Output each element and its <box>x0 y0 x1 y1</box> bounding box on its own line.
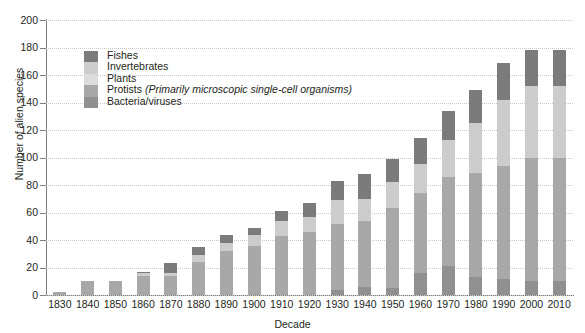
gridline-100 <box>46 158 573 159</box>
bar-segment-1910-protists <box>275 236 288 295</box>
gridline-0 <box>46 295 573 296</box>
x-tick-label-1900: 1900 <box>240 299 268 310</box>
bar-segment-1890-invertebrates <box>220 243 233 251</box>
bar-1880 <box>192 247 205 295</box>
bar-segment-1880-protists <box>192 262 205 295</box>
bar-segment-1990-protists <box>497 166 510 279</box>
bar-segment-1980-bacteria-viruses <box>469 277 482 295</box>
legend-swatch-invertebrates <box>84 62 98 73</box>
bar-segment-1920-protists <box>303 232 316 295</box>
bar-segment-1910-invertebrates <box>275 221 288 236</box>
x-tick-label-1890: 1890 <box>212 299 240 310</box>
legend-item-label: Protists <box>107 83 142 95</box>
gridline-80 <box>46 185 573 186</box>
x-tick-label-1880: 1880 <box>185 299 213 310</box>
x-tick-label-1940: 1940 <box>351 299 379 310</box>
bar-segment-1970-invertebrates <box>442 140 455 177</box>
bar-segment-2000-fishes <box>525 50 538 86</box>
bar-segment-1940-bacteria-viruses <box>358 287 371 295</box>
legend-item-label: Fishes <box>107 49 138 61</box>
legend-item-label: Plants <box>107 72 136 84</box>
bar-2010 <box>553 50 566 295</box>
bar-segment-1920-fishes <box>303 203 316 217</box>
bar-segment-1870-protists <box>164 276 177 295</box>
x-tick-label-1850: 1850 <box>101 299 129 310</box>
bar-segment-1990-invertebrates <box>497 100 510 166</box>
legend-item-note: (Primarily microscopic single-cell organ… <box>142 83 352 95</box>
x-tick-label-1840: 1840 <box>74 299 102 310</box>
x-tick-label-1930: 1930 <box>323 299 351 310</box>
bar-segment-1990-bacteria-viruses <box>497 279 510 296</box>
bar-1920 <box>303 203 316 295</box>
y-tick-label-40: 40 <box>0 235 38 246</box>
bar-segment-2000-protists <box>525 158 538 282</box>
legend-label-stack: FishesInvertebratesPlantsProtists (Prima… <box>107 50 352 107</box>
y-tick-label-100: 100 <box>0 152 38 163</box>
bar-segment-1960-invertebrates <box>414 164 427 193</box>
bar-segment-1940-protists <box>358 221 371 287</box>
bar-segment-1980-fishes <box>469 90 482 123</box>
legend-item-bacteria-viruses: Bacteria/viruses <box>107 96 352 107</box>
y-tick-label-120: 120 <box>0 125 38 136</box>
bar-segment-1950-invertebrates <box>386 182 399 208</box>
x-tick-label-1920: 1920 <box>296 299 324 310</box>
bar-segment-1990-fishes <box>497 63 510 100</box>
bar-segment-1830-protists <box>53 292 66 295</box>
bar-1840 <box>81 281 94 295</box>
bar-1960 <box>414 138 427 295</box>
bar-segment-1870-fishes <box>164 263 177 273</box>
y-tick-label-140: 140 <box>0 97 38 108</box>
x-tick-label-1830: 1830 <box>46 299 74 310</box>
bar-1910 <box>275 211 288 295</box>
x-tick-label-1980: 1980 <box>462 299 490 310</box>
bar-1860 <box>137 272 150 295</box>
bar-1940 <box>358 174 371 295</box>
x-tick-label-2000: 2000 <box>518 299 546 310</box>
bar-1950 <box>386 159 399 295</box>
bar-segment-2010-protists <box>553 158 566 282</box>
x-axis-title: Decade <box>0 318 585 330</box>
x-tick-label-1990: 1990 <box>490 299 518 310</box>
bar-1890 <box>220 235 233 296</box>
y-tick-label-20: 20 <box>0 262 38 273</box>
legend-swatch-plants <box>84 74 98 85</box>
bar-1830 <box>53 292 66 295</box>
bar-segment-1900-invertebrates <box>248 235 261 246</box>
bar-segment-1880-invertebrates <box>192 255 205 262</box>
legend-swatch-bacteria-viruses <box>84 97 98 108</box>
bar-segment-1910-fishes <box>275 211 288 221</box>
bar-segment-1840-protists <box>81 281 94 295</box>
chart-container: Number of alien species 0204060801001201… <box>0 0 585 333</box>
bar-segment-1980-invertebrates <box>469 123 482 173</box>
legend: FishesInvertebratesPlantsProtists (Prima… <box>84 50 352 108</box>
bar-segment-1880-fishes <box>192 247 205 255</box>
x-tick-label-2010: 2010 <box>545 299 573 310</box>
bar-2000 <box>525 50 538 295</box>
x-tick-label-1910: 1910 <box>268 299 296 310</box>
bar-segment-1850-protists <box>109 281 122 295</box>
y-tick-label-200: 200 <box>0 15 38 26</box>
gridline-120 <box>46 130 573 131</box>
y-tick-label-0: 0 <box>0 290 38 301</box>
x-tick-label-1970: 1970 <box>434 299 462 310</box>
bar-1930 <box>331 181 344 295</box>
legend-item-label: Bacteria/viruses <box>107 95 182 107</box>
x-tick-label-1860: 1860 <box>129 299 157 310</box>
bar-segment-1890-protists <box>220 251 233 295</box>
bar-segment-1970-protists <box>442 177 455 266</box>
bar-segment-1950-protists <box>386 208 399 288</box>
bar-segment-1930-bacteria-viruses <box>331 290 344 296</box>
x-tick-label-1950: 1950 <box>379 299 407 310</box>
bar-1990 <box>497 63 510 295</box>
legend-swatch-stack <box>84 51 98 108</box>
bar-1900 <box>248 228 261 295</box>
bar-segment-2000-bacteria-viruses <box>525 281 538 295</box>
bar-segment-2010-fishes <box>553 50 566 86</box>
y-tick-label-180: 180 <box>0 42 38 53</box>
x-tick-label-1870: 1870 <box>157 299 185 310</box>
y-tick-label-60: 60 <box>0 207 38 218</box>
bar-segment-1960-protists <box>414 193 427 273</box>
bar-segment-2010-invertebrates <box>553 86 566 158</box>
legend-swatch-fishes <box>84 51 98 62</box>
bar-segment-2010-bacteria-viruses <box>553 281 566 295</box>
